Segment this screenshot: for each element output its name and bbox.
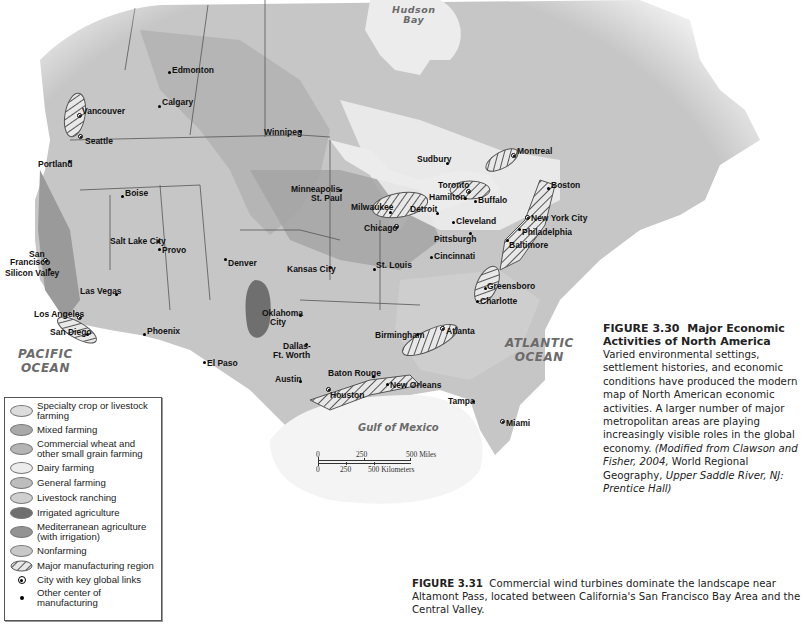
pacific-ocean-label: PACIFIC OCEAN (18, 347, 73, 375)
legend-label: Other center of manufacturing (37, 588, 158, 608)
city-label-san-diego: San Diego (50, 328, 92, 337)
city-dot (476, 300, 479, 303)
figure-3-30-body: Varied environmental settings, settlemen… (603, 348, 803, 495)
scale-bar: 0 250 500 Miles 0 250 500 Kilometers (316, 450, 476, 480)
specialty-crop-swatch (10, 405, 33, 417)
scale-km-250: 250 (340, 465, 351, 474)
city-label-baton-rouge: Baton Rouge (328, 369, 381, 378)
city-label-charlotte: Charlotte (480, 297, 517, 306)
livestock-swatch (10, 492, 33, 504)
mediterranean-swatch (10, 526, 33, 538)
city-label-buffalo: Buffalo (478, 196, 507, 205)
global-city-marker (525, 215, 530, 220)
legend-label: City with key global links (37, 575, 141, 585)
city-label-montreal: Montreal (517, 147, 552, 156)
city-label-boston: Boston (551, 181, 580, 190)
legend-label: Nonfarming (37, 546, 87, 556)
legend-item-other-center: Other center of manufacturing (10, 588, 158, 608)
legend-label: Mediterranean agriculture (with irrigati… (37, 522, 158, 542)
city-dot (203, 361, 206, 364)
city-label-atlanta: Atlanta (446, 327, 475, 336)
figure-3-31-number: FIGURE 3.31 (412, 578, 483, 589)
general-farming-swatch (10, 477, 33, 489)
figure-3-31-caption: FIGURE 3.31 Commercial wind turbines dom… (412, 577, 802, 616)
city-label-tampa: Tampa (448, 397, 475, 406)
city-label-dallas-2: Ft. Worth (273, 351, 310, 360)
city-dot (430, 256, 433, 259)
scale-miles-250: 250 (356, 450, 367, 459)
city-label-miami: Miami (506, 419, 530, 428)
city-dot (158, 105, 161, 108)
city-dot (121, 195, 124, 198)
legend-item-specialty-crop: Specialty crop or livestock farming (10, 401, 158, 421)
city-label-greensboro: Greensboro (487, 282, 535, 291)
circled-dot-icon (10, 576, 33, 584)
global-city-marker (511, 153, 516, 158)
scale-km-500: 500 Kilometers (368, 465, 414, 474)
global-city-marker (78, 134, 83, 139)
city-dot (224, 258, 227, 261)
irrigated-swatch (10, 507, 33, 519)
legend-item-wheat: Commercial wheat and other small grain f… (10, 439, 158, 459)
global-city-marker (500, 419, 505, 424)
city-label-milwaukee: Milwaukee (351, 203, 394, 212)
mixed-farming-swatch (10, 424, 33, 436)
city-label-sudbury: Sudbury (417, 155, 451, 164)
city-label-toronto: Toronto (438, 181, 469, 190)
map-legend: Specialty crop or livestock farming Mixe… (4, 397, 162, 621)
city-label-kansas-city: Kansas City (287, 265, 336, 274)
city-label-portland: Portland (38, 160, 72, 169)
city-dot (452, 221, 455, 224)
city-label-hamilton: Hamilton (429, 193, 465, 202)
city-label-calgary: Calgary (162, 98, 193, 107)
city-label-los-angeles: Los Angeles (34, 310, 84, 319)
city-dot (547, 187, 550, 190)
city-label-detroit: Detroit (410, 205, 437, 214)
legend-item-mediterranean: Mediterranean agriculture (with irrigati… (10, 522, 158, 542)
legend-label: Major manufacturing region (37, 561, 154, 571)
city-label-birmingham: Birmingham (375, 331, 425, 340)
city-label-edmonton: Edmonton (172, 66, 214, 75)
city-label-baltimore: Baltimore (509, 241, 548, 250)
legend-label: Specialty crop or livestock farming (37, 401, 158, 421)
city-label-philadelphia: Philadelphia (522, 228, 572, 237)
city-label-pittsburgh: Pittsburgh (434, 235, 477, 244)
city-label-winnipeg: Winnipeg (264, 128, 302, 137)
global-city-marker (440, 326, 445, 331)
legend-label: Irrigated agriculture (37, 508, 120, 518)
figure-3-30-caption: FIGURE 3.30 Major Economic Activities of… (603, 322, 803, 495)
city-dot (518, 228, 521, 231)
city-label-cincinnati: Cincinnati (434, 252, 475, 261)
legend-item-manufacturing: Major manufacturing region (10, 560, 158, 572)
city-dot (474, 200, 477, 203)
legend-item-dairy: Dairy farming (10, 462, 158, 474)
city-label-chicago: Chicago (364, 224, 398, 233)
city-dot (386, 383, 389, 386)
nonfarming-swatch (10, 545, 33, 557)
gulf-of-mexico-label: Gulf of Mexico (358, 422, 439, 433)
legend-item-nonfarming: Nonfarming (10, 545, 158, 557)
city-label-san-francisco-2: Francisco (10, 258, 50, 267)
city-label-houston: Houston (330, 391, 364, 400)
city-label-austin: Austin (275, 375, 301, 384)
city-label-el-paso: El Paso (207, 359, 238, 368)
city-label-cleveland: Cleveland (456, 217, 496, 226)
city-label-boise: Boise (125, 189, 148, 198)
city-label-denver: Denver (228, 259, 257, 268)
city-label-salt-lake-city: Salt Lake City (110, 237, 166, 246)
hudson-bay-label: Hudson Bay (392, 5, 435, 25)
city-label-minneapolis-2: St. Paul (311, 194, 342, 203)
legend-label: Dairy farming (37, 463, 94, 473)
city-label-las-vegas: Las Vegas (80, 287, 122, 296)
legend-label: Livestock ranching (37, 493, 116, 503)
legend-label: Commercial wheat and other small grain f… (37, 439, 158, 459)
legend-item-livestock: Livestock ranching (10, 492, 158, 504)
legend-label: General farming (37, 478, 106, 488)
dot-icon (10, 596, 33, 600)
legend-label: Mixed farming (37, 425, 97, 435)
city-label-new-york-city: New York City (531, 214, 587, 223)
scale-km-0: 0 (316, 465, 320, 474)
legend-item-mixed-farming: Mixed farming (10, 424, 158, 436)
city-label-new-orleans: New Orleans (390, 381, 442, 390)
city-dot (158, 248, 161, 251)
